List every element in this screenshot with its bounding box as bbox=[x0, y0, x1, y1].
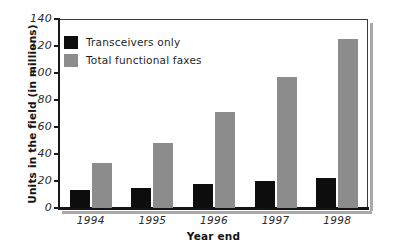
x-axis-tick-label: 1995 bbox=[122, 214, 182, 226]
bar-1995-faxes bbox=[153, 143, 173, 208]
bar-1997-faxes bbox=[277, 77, 297, 208]
y-axis-title: Units in the field (in millions) bbox=[26, 19, 38, 209]
legend-item-label: Total functional faxes bbox=[86, 54, 202, 66]
bar-1994-faxes bbox=[92, 163, 112, 208]
x-axis-title: Year end bbox=[59, 230, 368, 242]
x-axis-tick-label: 1996 bbox=[184, 214, 244, 226]
x-axis-tick-label: 1994 bbox=[61, 214, 121, 226]
gray-swatch-icon bbox=[64, 54, 78, 67]
bar-1996-faxes bbox=[215, 112, 235, 208]
black-swatch-icon bbox=[64, 36, 78, 49]
x-axis-tick-label: 1998 bbox=[307, 214, 367, 226]
plot-frame-shadow-right bbox=[370, 23, 373, 211]
bar-1998-faxes bbox=[338, 39, 358, 208]
bar-chart: 020406080100120140 19941995199619971998 … bbox=[0, 0, 396, 251]
chart-legend: Transceivers onlyTotal functional faxes bbox=[64, 34, 202, 70]
bar-1998-transceivers bbox=[316, 178, 336, 208]
chart-screenshot: 020406080100120140 19941995199619971998 … bbox=[0, 0, 396, 251]
legend-item: Total functional faxes bbox=[64, 52, 202, 68]
legend-item: Transceivers only bbox=[64, 34, 202, 50]
bar-1994-transceivers bbox=[70, 190, 90, 208]
bar-1995-transceivers bbox=[131, 188, 151, 208]
bar-1997-transceivers bbox=[255, 181, 275, 208]
x-axis-tick-label: 1997 bbox=[246, 214, 306, 226]
bar-1996-transceivers bbox=[193, 184, 213, 208]
legend-item-label: Transceivers only bbox=[86, 36, 180, 48]
